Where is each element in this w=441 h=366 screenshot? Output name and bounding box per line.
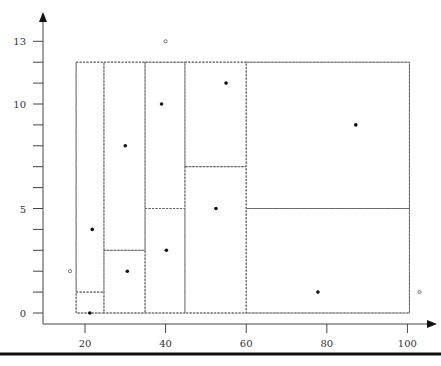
- filled-point: [316, 290, 320, 294]
- x-tick-label: 100: [398, 338, 417, 349]
- partition-boxes: [76, 62, 409, 313]
- partition-cell: [145, 209, 185, 314]
- filled-point: [224, 81, 228, 85]
- data-points: [68, 40, 421, 315]
- partition-scatter-diagram: 051013 20406080100: [0, 0, 441, 366]
- filled-point: [354, 123, 358, 127]
- filled-point: [88, 311, 92, 315]
- open-point: [164, 40, 167, 43]
- open-point: [68, 270, 71, 273]
- x-tick-label: 20: [79, 338, 92, 349]
- x-ticks: 20406080100: [79, 324, 417, 349]
- filled-point: [90, 228, 94, 232]
- partition-cell: [185, 62, 246, 167]
- y-tick-label: 0: [20, 308, 26, 319]
- y-ticks: 051013: [13, 36, 43, 319]
- x-axis-arrow-icon: [427, 320, 437, 328]
- y-tick-label: 10: [13, 99, 26, 110]
- y-tick-label: 5: [20, 204, 26, 215]
- partition-cell: [104, 62, 145, 250]
- partition-cell: [185, 167, 246, 313]
- y-tick-label: 13: [13, 36, 26, 47]
- filled-point: [165, 249, 169, 253]
- outer-box: [76, 62, 409, 313]
- filled-point: [214, 207, 218, 211]
- partition-cell: [76, 292, 104, 313]
- x-tick-label: 40: [159, 338, 172, 349]
- partition-cell: [76, 62, 104, 292]
- filled-point: [160, 102, 164, 106]
- open-point: [418, 291, 421, 294]
- partition-cell: [145, 62, 185, 208]
- x-tick-label: 80: [320, 338, 333, 349]
- partition-cell: [246, 62, 409, 208]
- partition-cell: [246, 209, 409, 314]
- x-tick-label: 60: [240, 338, 253, 349]
- partition-cell: [104, 250, 145, 313]
- filled-point: [124, 144, 128, 148]
- filled-point: [126, 269, 130, 273]
- y-axis-arrow-icon: [39, 12, 47, 22]
